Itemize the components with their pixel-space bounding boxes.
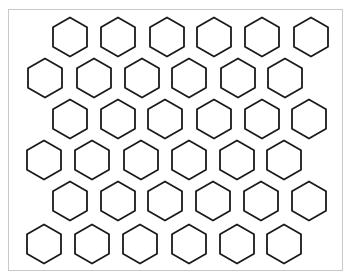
hexagon-row — [27, 141, 301, 180]
hexagon-icon — [125, 59, 159, 98]
hexagon-icon — [294, 18, 328, 57]
hexagon-icon — [267, 225, 301, 264]
hexagon-icon — [292, 182, 326, 221]
hexagon-icon — [75, 225, 109, 264]
hexagon-icon — [53, 182, 87, 221]
hexagon-icon — [27, 225, 61, 264]
hexagon-row — [28, 59, 302, 98]
hexagon-icon — [172, 225, 206, 264]
hexagon-icon — [268, 59, 302, 98]
hexagon-icon — [148, 182, 182, 221]
hexagon-icon — [245, 100, 279, 139]
hexagon-icon — [221, 59, 255, 98]
hexagon-icon — [150, 18, 184, 57]
hexagon-icon — [101, 182, 135, 221]
hexagon-icon — [267, 141, 301, 180]
hexagon-icon — [101, 100, 135, 139]
hexagon-icon — [220, 141, 254, 180]
hexagon-icon — [196, 182, 230, 221]
hexagon-row — [53, 100, 326, 139]
hexagon-row — [53, 182, 326, 221]
hexagon-icon — [172, 59, 206, 98]
hexagon-icon — [148, 100, 182, 139]
hexagon-icon — [172, 141, 206, 180]
hexagon-icon — [123, 225, 157, 264]
hexagon-icon — [27, 141, 61, 180]
hexagon-row — [53, 18, 328, 57]
hexagon-icon — [124, 141, 158, 180]
hexagon-icon — [53, 18, 87, 57]
hexagon-icon — [75, 141, 109, 180]
hexagon-icon — [53, 100, 87, 139]
hexagon-icon — [77, 59, 111, 98]
hexagon-grid — [0, 0, 348, 279]
hexagon-icon — [197, 100, 231, 139]
hexagon-icon — [101, 18, 135, 57]
hexagon-icon — [197, 18, 231, 57]
hexagon-icon — [28, 59, 62, 98]
hexagon-icon — [245, 18, 279, 57]
hexagon-icon — [220, 225, 254, 264]
hexagon-icon — [292, 100, 326, 139]
hexagon-icon — [244, 182, 278, 221]
hexagon-row — [27, 225, 301, 264]
